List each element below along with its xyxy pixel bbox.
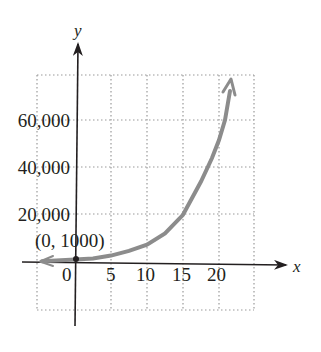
y-axis — [75, 44, 78, 326]
y-axis-label: y — [72, 21, 82, 40]
x-tick-10: 10 — [136, 264, 155, 285]
x-axis-label: x — [292, 257, 301, 276]
point-annotation: (0, 1000) — [35, 230, 105, 252]
x-tick-20: 20 — [207, 264, 226, 285]
y-tick-40000: 40,000 — [18, 157, 70, 178]
y-tick-60000: 60,000 — [18, 110, 70, 131]
x-tick-0: 0 — [62, 264, 72, 285]
exponential-chart: y x 60,000 40,000 20,000 (0, 1000) 0 5 1… — [0, 0, 321, 352]
y-tick-20000: 20,000 — [18, 204, 70, 225]
x-tick-15: 15 — [172, 264, 191, 285]
x-tick-5: 5 — [106, 264, 116, 285]
point-marker — [73, 256, 79, 262]
